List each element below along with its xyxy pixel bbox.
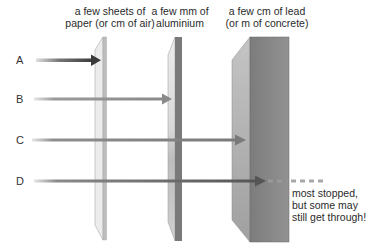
lead-label: a few cm of lead (or m of concrete) xyxy=(226,5,309,29)
arrow-c xyxy=(32,135,246,146)
arrow-a xyxy=(36,55,101,67)
penetration-note: most stopped, but some may still get thr… xyxy=(292,187,366,223)
ray-label-d: D xyxy=(16,175,24,187)
ray-label-a: A xyxy=(16,54,24,66)
svg-text:a few cm of lead: a few cm of lead xyxy=(229,5,306,17)
ray-label-c: C xyxy=(16,134,24,146)
svg-text:aluminium: aluminium xyxy=(156,17,204,29)
svg-text:a few mm of: a few mm of xyxy=(151,5,208,17)
svg-text:a few sheets of: a few sheets of xyxy=(75,5,146,17)
svg-text:paper (or cm of air): paper (or cm of air) xyxy=(65,17,154,29)
svg-text:(or m of concrete): (or m of concrete) xyxy=(226,17,309,29)
radiation-penetration-diagram: a few sheets of paper (or cm of air) a f… xyxy=(0,0,366,250)
ray-label-b: B xyxy=(16,93,23,105)
paper-label: a few sheets of paper (or cm of air) xyxy=(65,5,154,29)
svg-text:most stopped,: most stopped, xyxy=(292,187,358,199)
aluminium-label: a few mm of aluminium xyxy=(151,5,208,29)
svg-text:still get through!: still get through! xyxy=(292,211,366,223)
lead-block-front xyxy=(250,37,289,242)
svg-text:but some may: but some may xyxy=(292,199,359,211)
